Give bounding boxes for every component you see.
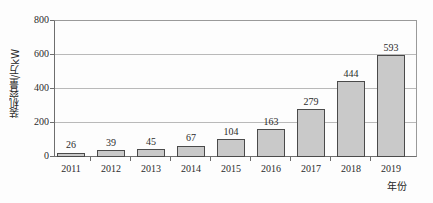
y-tick-label-0: 0 <box>16 150 49 161</box>
bar-value-2013: 45 <box>131 136 171 147</box>
bar-2014 <box>177 146 205 158</box>
bar-value-2015: 104 <box>211 126 251 137</box>
bar-value-2018: 444 <box>331 68 371 79</box>
x-tick-label-2013: 2013 <box>129 163 173 174</box>
x-axis-title: 年份 <box>373 178 421 193</box>
x-tick-label-2018: 2018 <box>329 163 373 174</box>
bar-value-2014: 67 <box>171 132 211 143</box>
bar-2016 <box>257 129 285 157</box>
y-tick-label-800: 800 <box>16 14 49 25</box>
bar-value-2019: 593 <box>371 42 411 53</box>
x-tick-label-2016: 2016 <box>249 163 293 174</box>
gridline-600 <box>55 54 416 55</box>
y-tick-label-600: 600 <box>16 48 49 59</box>
bar-2017 <box>297 109 325 157</box>
bar-2013 <box>137 149 165 157</box>
x-tick-mark-6 <box>290 157 291 161</box>
bar-2019 <box>377 55 405 157</box>
y-tick-label-200: 200 <box>16 116 49 127</box>
x-tick-label-2014: 2014 <box>169 163 213 174</box>
x-tick-mark-7 <box>330 157 331 161</box>
bar-value-2016: 163 <box>251 116 291 127</box>
x-tick-mark-4 <box>210 157 211 161</box>
x-tick-mark-2 <box>130 157 131 161</box>
bar-value-2017: 279 <box>291 96 331 107</box>
bar-value-2011: 26 <box>51 139 91 150</box>
y-tick-label-400: 400 <box>16 82 49 93</box>
x-tick-mark-8 <box>370 157 371 161</box>
x-tick-label-2017: 2017 <box>289 163 333 174</box>
x-tick-label-2015: 2015 <box>209 163 253 174</box>
bar-2011 <box>57 153 85 158</box>
x-tick-mark-1 <box>90 157 91 161</box>
bar-value-2012: 39 <box>91 137 131 148</box>
x-tick-mark-3 <box>170 157 171 161</box>
x-tick-label-2012: 2012 <box>89 163 133 174</box>
bar-chart: 装机容量/万kW 800 600 400 200 0 26 39 45 67 1… <box>0 0 433 203</box>
bar-2018 <box>337 81 365 157</box>
x-tick-label-2019: 2019 <box>369 163 413 174</box>
x-tick-mark-5 <box>250 157 251 161</box>
bar-2012 <box>97 150 125 157</box>
bar-2015 <box>217 139 245 157</box>
x-tick-label-2011: 2011 <box>49 163 93 174</box>
